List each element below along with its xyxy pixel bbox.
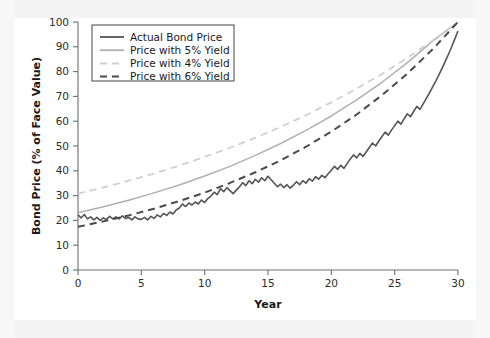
legend-label: Price with 4% Yield <box>130 57 230 69</box>
y-tick-label: 90 <box>56 40 69 52</box>
legend-label: Price with 6% Yield <box>130 70 230 82</box>
chart-legend: Actual Bond PricePrice with 5% YieldPric… <box>92 25 234 82</box>
x-tick-label: 20 <box>325 277 338 289</box>
y-tick-label: 80 <box>56 65 69 77</box>
legend-label: Price with 5% Yield <box>130 44 230 56</box>
y-axis-ticks: 0102030405060708090100 <box>49 16 78 276</box>
x-tick-label: 15 <box>261 277 274 289</box>
x-tick-label: 10 <box>198 277 211 289</box>
y-axis-title: Bond Price (% of Face Value) <box>30 57 43 235</box>
x-axis-title: Year <box>253 298 282 311</box>
y-tick-label: 10 <box>56 239 69 251</box>
y-tick-label: 20 <box>56 214 69 226</box>
x-tick-label: 0 <box>75 277 82 289</box>
y-tick-label: 30 <box>56 189 69 201</box>
y-tick-label: 70 <box>56 90 69 102</box>
x-axis-ticks: 051015202530 <box>75 270 465 289</box>
y-tick-label: 0 <box>62 264 69 276</box>
y-tick-label: 60 <box>56 115 69 127</box>
bond-price-line-chart: 0102030405060708090100 051015202530 Bond… <box>0 0 490 338</box>
chart-page: 0102030405060708090100 051015202530 Bond… <box>0 0 490 338</box>
y-tick-label: 100 <box>49 16 69 28</box>
legend-label: Actual Bond Price <box>130 31 222 43</box>
x-tick-label: 5 <box>138 277 145 289</box>
x-tick-label: 30 <box>451 277 464 289</box>
y-tick-label: 40 <box>56 164 69 176</box>
y-tick-label: 50 <box>56 140 69 152</box>
x-tick-label: 25 <box>388 277 401 289</box>
